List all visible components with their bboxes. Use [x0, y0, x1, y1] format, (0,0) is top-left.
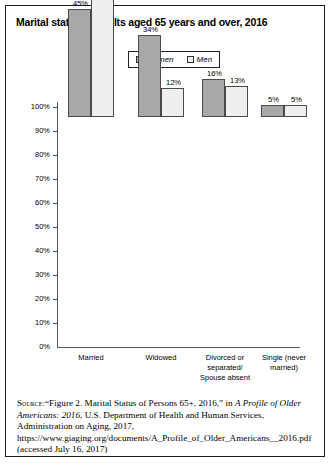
y-tick-mark-10 [53, 323, 57, 324]
y-tick-mark-30 [53, 275, 57, 276]
y-tick-mark-90 [53, 131, 57, 132]
x-category-label-widowed: Widowed [131, 353, 191, 363]
bar-value-divorced-men: 13% [224, 76, 251, 85]
y-tick-mark-80 [53, 155, 57, 156]
y-tick-label-90: 90% [18, 127, 50, 135]
source-kicker: Source: [17, 398, 45, 408]
y-tick-label-80: 80% [18, 151, 50, 159]
x-category-label-married: Married [61, 353, 121, 363]
bar-widowed-women[interactable]: 34% [138, 35, 161, 117]
y-tick-label-50: 50% [18, 223, 50, 231]
bar-value-widowed-men: 12% [160, 78, 187, 87]
bar-married-women[interactable]: 45% [68, 9, 91, 117]
y-tick-label-0: 0% [18, 343, 50, 351]
bar-single-men[interactable]: 5% [284, 105, 307, 117]
bar-value-single-men: 5% [283, 95, 310, 104]
x-axis-line [57, 347, 300, 348]
y-tick-label-30: 30% [18, 271, 50, 279]
x-category-label-divorced: Divorced or separated/ Spouse absent [194, 353, 256, 383]
y-tick-label-20: 20% [18, 295, 50, 303]
y-tick-label-100: 100% [18, 103, 50, 111]
source-text-part1: “Figure 2. Marital Status of Persons 65+… [45, 398, 235, 408]
y-tick-label-70: 70% [18, 175, 50, 183]
x-category-label-single: Single (never married) [253, 353, 315, 373]
y-tick-label-60: 60% [18, 199, 50, 207]
bar-single-women[interactable]: 5% [261, 105, 284, 117]
y-axis-line [57, 102, 58, 347]
bar-married-men[interactable]: 70% [91, 0, 114, 117]
plot-area: 100% 90% 80% 70% 60% 50% 40% 30% 20% 10%… [6, 6, 326, 458]
bar-group-widowed: 34% 12% [138, 0, 184, 117]
y-tick-mark-60 [53, 203, 57, 204]
bar-value-widowed-women: 34% [137, 25, 164, 34]
y-tick-mark-100 [53, 107, 57, 108]
bar-divorced-men[interactable]: 13% [225, 86, 248, 117]
bar-group-divorced: 16% 13% [202, 0, 248, 117]
y-tick-mark-20 [53, 299, 57, 300]
y-tick-mark-70 [53, 179, 57, 180]
bar-group-married: 45% 70% [68, 0, 114, 117]
source-note: Source:“Figure 2. Marital Status of Pers… [17, 398, 315, 456]
y-tick-mark-40 [53, 251, 57, 252]
bar-divorced-women[interactable]: 16% [202, 79, 225, 117]
figure-container: Marital status of adults aged 65 years a… [5, 5, 325, 457]
y-tick-label-40: 40% [18, 247, 50, 255]
y-tick-label-10: 10% [18, 319, 50, 327]
y-tick-mark-50 [53, 227, 57, 228]
bar-group-single: 5% 5% [261, 0, 307, 117]
bar-value-married-women: 45% [67, 0, 94, 8]
bar-widowed-men[interactable]: 12% [161, 88, 184, 117]
